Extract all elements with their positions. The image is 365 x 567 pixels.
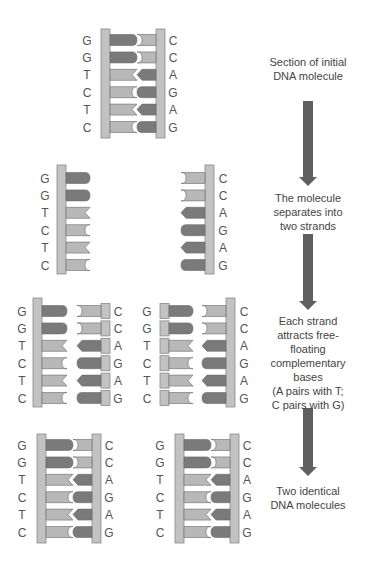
base-letter-label: G (17, 456, 26, 470)
thymine-base (42, 375, 67, 386)
base-letter-label: T (143, 339, 151, 353)
base-letter-label: C (219, 189, 228, 203)
base-letter-label: C (243, 456, 252, 470)
base-letter-label: A (219, 241, 227, 255)
adenine-base (202, 375, 226, 386)
base-letter-label: A (105, 473, 113, 487)
cytosine-base (77, 323, 101, 334)
base-letter-label: A (114, 339, 122, 353)
base-letter-label: G (17, 322, 26, 336)
guanine-base (137, 87, 156, 98)
thymine-base (66, 242, 90, 253)
caption-separate-line: The molecule (258, 191, 358, 205)
cytosine-base (137, 35, 156, 46)
separated-strands: GGTCTCCCAGAG (40, 165, 227, 274)
base-letter-label: G (168, 86, 177, 100)
thymine-base (46, 474, 73, 485)
caption-result-line: Two identical (258, 484, 358, 498)
sugar-phosphate-backbone (101, 321, 110, 336)
base-letter-label: T (18, 339, 26, 353)
thymine-base (184, 474, 211, 485)
sugar-phosphate-backbone (205, 165, 214, 274)
base-letter-label: T (156, 473, 164, 487)
guanine-base (46, 457, 73, 468)
base-letter-label: T (156, 508, 164, 522)
base-letter-label: A (105, 508, 113, 522)
base-letter-label: C (18, 392, 27, 406)
guanine-base (169, 323, 193, 334)
cytosine-base (184, 492, 211, 503)
arrow-head (299, 301, 317, 310)
thymine-base (66, 207, 90, 218)
base-letter-label: C (105, 456, 114, 470)
caption-separate-line: two strands (258, 219, 358, 233)
right-pairing-group: GCGCTACGTACG (142, 298, 248, 407)
dna-replication-diagram: GCGCTACGTACGGGTCTCCCAGAGGCGCTACGTACGGCGC… (0, 0, 365, 567)
guanine-base (110, 35, 137, 46)
guanine-base (110, 52, 137, 63)
base-letter-label: C (169, 51, 178, 65)
caption-separate-line: separates into (258, 205, 358, 219)
sugar-phosphate-backbone (160, 321, 169, 336)
base-letter-label: C (156, 526, 165, 540)
sugar-phosphate-backbone (92, 434, 101, 543)
base-letter-label: C (169, 34, 178, 48)
sugar-phosphate-backbone (33, 298, 42, 407)
adenine-base (73, 509, 92, 520)
guanine-base (42, 323, 67, 334)
guanine-base (66, 190, 90, 201)
base-letter-label: G (242, 491, 251, 505)
adenine-base (137, 104, 156, 115)
sugar-phosphate-backbone (226, 298, 235, 407)
arrow-shaft (303, 408, 313, 467)
caption-attract: Each strand attracts free- floating comp… (258, 314, 358, 412)
cytosine-base (202, 306, 226, 317)
sugar-phosphate-backbone (57, 165, 66, 274)
sugar-phosphate-backbone (101, 304, 110, 319)
thymine-base (110, 69, 137, 80)
base-letter-label: G (104, 491, 113, 505)
base-letter-label: C (18, 526, 27, 540)
down-arrow-icon (299, 408, 317, 476)
cytosine-base (211, 457, 230, 468)
adenine-base (211, 509, 230, 520)
left-template-strand: GGTCTC (40, 165, 90, 274)
base-letter-label: A (240, 374, 248, 388)
base-letter-label: C (83, 86, 92, 100)
guanine-base (211, 492, 230, 503)
sugar-phosphate-backbone (101, 29, 110, 138)
cytosine-base (110, 122, 137, 133)
cytosine-base (73, 457, 92, 468)
base-letter-label: G (40, 172, 49, 186)
base-letter-label: A (243, 508, 251, 522)
daughter-dna-molecule-right: GCGCTACGTACG (155, 434, 251, 543)
complementary-pairing: GCGCTACGTACGGCGCTACGTACG (17, 298, 248, 407)
base-letter-label: G (239, 392, 248, 406)
cytosine-base (211, 440, 230, 451)
thymine-base (169, 375, 193, 386)
adenine-base (181, 207, 205, 218)
caption-result: Two identical DNA molecules (258, 484, 358, 512)
base-letter-label: G (82, 34, 91, 48)
caption-result-line: DNA molecules (258, 498, 358, 512)
thymine-base (46, 509, 73, 520)
base-letter-label: G (239, 357, 248, 371)
base-letter-label: G (113, 357, 122, 371)
sugar-phosphate-backbone (101, 338, 110, 353)
base-letter-label: C (243, 439, 252, 453)
base-letter-label: G (168, 121, 177, 135)
base-letter-label: C (240, 305, 249, 319)
sugar-phosphate-backbone (156, 29, 165, 138)
caption-separate: The molecule separates into two strands (258, 191, 358, 233)
guanine-base (181, 260, 205, 271)
base-letter-label: C (83, 121, 92, 135)
sugar-phosphate-backbone (160, 356, 169, 371)
cytosine-base (169, 358, 193, 369)
guanine-base (77, 358, 101, 369)
sugar-phosphate-backbone (160, 338, 169, 353)
guanine-base (73, 527, 92, 538)
base-letter-label: T (143, 374, 151, 388)
base-letter-label: C (240, 322, 249, 336)
base-letter-label: G (113, 392, 122, 406)
guanine-base (66, 173, 90, 184)
